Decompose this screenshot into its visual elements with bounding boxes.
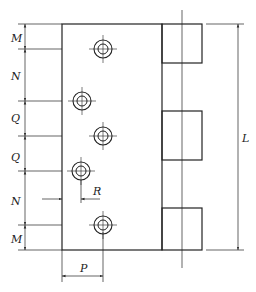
dim-label-M: M: [10, 233, 23, 246]
dim-label-N: N: [10, 70, 21, 83]
dim-label-M: M: [10, 32, 23, 45]
hinge-body: [62, 10, 202, 268]
technical-drawing-svg: MNQQNMLPR: [0, 0, 256, 292]
dim-label-Q: Q: [11, 151, 20, 164]
dim-label-L: L: [241, 132, 249, 145]
dim-label-Q: Q: [11, 112, 20, 125]
hinge-drawing: MNQQNMLPR: [0, 0, 256, 292]
hole-1: [89, 35, 117, 63]
hole-3: [89, 122, 117, 150]
mounting-holes: [67, 35, 117, 239]
dim-label-P: P: [79, 262, 88, 275]
hole-2: [68, 87, 96, 115]
dim-label-N: N: [10, 195, 21, 208]
dimension-lines: [18, 24, 244, 282]
dim-label-R: R: [92, 185, 101, 198]
dimension-labels: MNQQNMLPR: [10, 32, 249, 275]
